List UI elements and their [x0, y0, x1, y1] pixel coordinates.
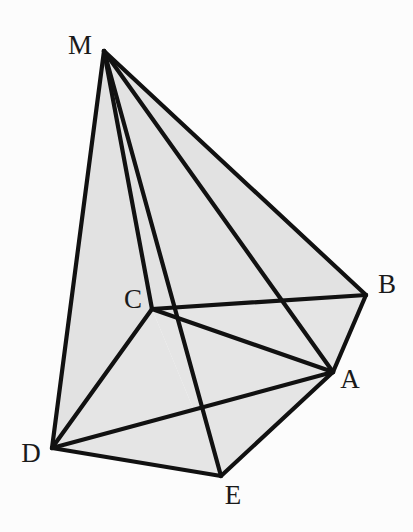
vertex-label-m: M [68, 30, 92, 60]
vertex-label-c: C [124, 284, 142, 314]
vertex-label-d: D [21, 438, 41, 468]
vertex-label-b: B [378, 269, 396, 299]
vertex-label-a: A [340, 364, 360, 394]
geometry-canvas: MBACDE [0, 0, 413, 532]
vertex-label-e: E [225, 480, 242, 510]
geometry-figure: MBACDE [0, 0, 413, 532]
